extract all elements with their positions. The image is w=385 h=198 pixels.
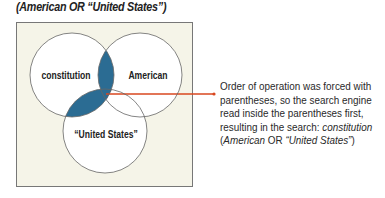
search-term: “United States”: [285, 134, 351, 146]
label-constitution: constitution: [41, 70, 90, 81]
note-line: (American OR “United States”): [220, 134, 385, 148]
note-line: parentheses, so the search engine: [220, 94, 385, 108]
label-american: American: [128, 70, 167, 81]
note-line: read inside the parentheses first,: [220, 107, 385, 121]
label-united-states: “United States”: [74, 129, 137, 140]
explanation-note: Order of operation was forced with paren…: [220, 80, 385, 148]
search-term: constitution: [322, 121, 372, 133]
note-line: Order of operation was forced with: [220, 80, 385, 94]
search-term: American: [223, 134, 265, 146]
note-line: resulting in the search: constitution: [220, 121, 385, 135]
pointer-arrow-dot: [212, 92, 215, 95]
